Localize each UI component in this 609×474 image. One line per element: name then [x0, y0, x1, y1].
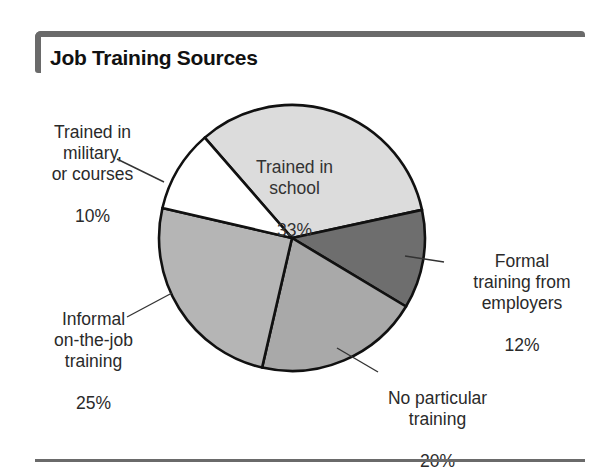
label-text: Informal on-the-job training — [36, 309, 151, 372]
slice-label-none: No particular training 20% — [370, 367, 505, 474]
slice-label-informal: Informal on-the-job training 25% — [36, 288, 151, 435]
label-text: No particular training — [370, 388, 505, 430]
label-text: Trained in military, or courses — [30, 122, 155, 185]
label-percent: 25% — [36, 393, 151, 414]
label-text: Formal training from employers — [437, 251, 607, 314]
slice-label-school: Trained in school 33% — [252, 136, 337, 262]
label-percent: 12% — [437, 335, 607, 356]
label-percent: 10% — [30, 206, 155, 227]
slice-label-employers: Formal training from employers 12% — [437, 230, 607, 377]
slice-label-military: Trained in military, or courses 10% — [30, 101, 155, 248]
bottom-rule — [35, 459, 585, 462]
label-text: Trained in school — [252, 157, 337, 199]
label-percent: 33% — [252, 220, 337, 241]
